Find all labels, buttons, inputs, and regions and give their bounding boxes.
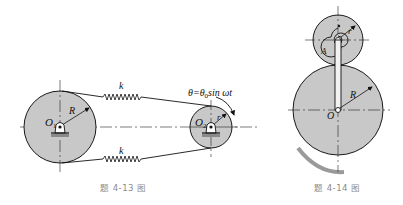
right-radius-label: r xyxy=(217,112,221,122)
spring-top-label: k xyxy=(119,80,124,91)
spring-bottom-label: k xyxy=(119,145,124,156)
left-radius-label: R xyxy=(68,105,75,116)
point-a-label: A xyxy=(320,46,327,56)
big-radius-label: R xyxy=(349,89,356,100)
motion-equation: θ=θ0sin ωt xyxy=(188,87,232,100)
connecting-rod xyxy=(335,40,341,110)
diagram-canvas: k k O1 R O2 r θ=θ0sin ωt r A R O xyxy=(0,0,403,205)
figure-4-13: k k O1 R O2 r θ=θ0sin ωt xyxy=(20,80,260,174)
figure-4-14: r A R O xyxy=(288,6,390,172)
caption-4-13: 题 4-13 图 xyxy=(100,181,147,193)
caption-4-14: 题 4-14 图 xyxy=(314,181,361,193)
small-radius-label: r xyxy=(348,26,352,36)
big-center-label: O xyxy=(327,110,334,121)
